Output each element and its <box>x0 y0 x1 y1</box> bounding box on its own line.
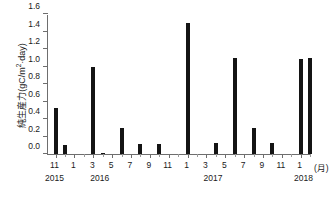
bar <box>91 67 95 155</box>
x-axis-month-label: 9 <box>146 161 151 170</box>
bar <box>299 59 303 154</box>
x-axis-minor-tick <box>103 154 104 157</box>
x-axis-minor-tick <box>84 154 85 157</box>
y-axis-title-main: 純生産力(gC/m <box>17 67 27 128</box>
x-axis-tick <box>244 154 245 158</box>
y-axis-tick-label: 0.2 <box>28 125 40 133</box>
x-axis-unit-label: (月) <box>314 161 329 173</box>
x-axis-month-label: 11 <box>50 161 59 170</box>
bar <box>120 128 124 154</box>
y-axis-tick <box>43 118 48 119</box>
x-axis-month-label: 3 <box>90 161 95 170</box>
x-axis-year-label: 2018 <box>294 174 313 183</box>
x-axis-month-label: 5 <box>222 161 227 170</box>
x-axis-tick <box>282 154 283 158</box>
x-axis-tick <box>112 154 113 158</box>
x-axis-minor-tick <box>65 154 66 157</box>
y-axis-tick-label: 0.8 <box>28 72 40 80</box>
y-axis-tick <box>43 153 48 154</box>
x-axis-tick <box>188 154 189 158</box>
x-axis-minor-tick <box>159 154 160 157</box>
x-axis-month-label: 7 <box>241 161 246 170</box>
x-axis-month-label: 11 <box>163 161 172 170</box>
y-axis-tick <box>43 66 48 67</box>
bar <box>214 143 218 154</box>
x-axis-tick <box>131 154 132 158</box>
bar <box>308 58 312 154</box>
x-axis-tick <box>263 154 264 158</box>
bar <box>157 144 161 154</box>
y-axis-tick <box>43 13 48 14</box>
x-axis-tick <box>93 154 94 158</box>
x-axis-minor-tick <box>310 154 311 157</box>
bar <box>101 153 105 154</box>
x-axis-minor-tick <box>140 154 141 157</box>
y-axis-tick <box>43 83 48 84</box>
y-axis-tick-label: 0.4 <box>28 107 40 115</box>
x-axis-minor-tick <box>197 154 198 157</box>
x-axis-year-label: 2015 <box>45 174 64 183</box>
y-axis-title-tail: ·day) <box>17 43 27 64</box>
x-axis-minor-tick <box>291 154 292 157</box>
x-axis-month-label: 1 <box>297 161 302 170</box>
x-axis-minor-tick <box>122 154 123 157</box>
y-axis-tick <box>43 31 48 32</box>
x-axis-tick <box>56 154 57 158</box>
x-axis-tick <box>206 154 207 158</box>
x-axis-tick <box>169 154 170 158</box>
x-axis-year-label: 2017 <box>203 174 222 183</box>
y-axis-tick <box>43 101 48 102</box>
bar <box>138 144 142 154</box>
y-axis-title: 純生産力(gC/m2·day) <box>15 11 28 161</box>
x-axis-minor-tick <box>235 154 236 157</box>
x-axis-month-label: 7 <box>128 161 133 170</box>
x-axis-month-label: 3 <box>203 161 208 170</box>
bar <box>233 58 237 154</box>
bar <box>63 145 67 154</box>
x-axis-month-label: 5 <box>109 161 114 170</box>
plot-area: 0.00.20.40.60.81.01.21.41.6 <box>47 15 311 155</box>
bar <box>252 128 256 154</box>
x-axis-tick <box>301 154 302 158</box>
x-axis-minor-tick <box>254 154 255 157</box>
y-axis-title-superscript: 2 <box>15 64 22 68</box>
bar <box>54 108 58 154</box>
y-axis-tick-label: 1.6 <box>28 2 40 10</box>
y-axis-tick-label: 0.6 <box>28 90 40 98</box>
bar <box>270 143 274 154</box>
y-axis-tick-label: 1.2 <box>28 37 40 45</box>
x-axis-minor-tick <box>272 154 273 157</box>
y-axis-tick-label: 1.4 <box>28 20 40 28</box>
x-axis-tick <box>74 154 75 158</box>
x-axis-tick <box>225 154 226 158</box>
x-axis-year-label: 2016 <box>90 174 109 183</box>
x-axis-month-label: 11 <box>276 161 285 170</box>
x-axis-month-label: 1 <box>184 161 189 170</box>
y-axis-tick-label: 0.0 <box>28 142 40 150</box>
y-axis-tick-label: 1.0 <box>28 55 40 63</box>
bar <box>186 23 190 154</box>
x-axis-minor-tick <box>178 154 179 157</box>
x-axis-month-label: 1 <box>71 161 76 170</box>
y-axis-tick <box>43 136 48 137</box>
x-axis-month-label: 9 <box>260 161 265 170</box>
x-axis-minor-tick <box>216 154 217 157</box>
y-axis-tick <box>43 48 48 49</box>
x-axis-tick <box>150 154 151 158</box>
